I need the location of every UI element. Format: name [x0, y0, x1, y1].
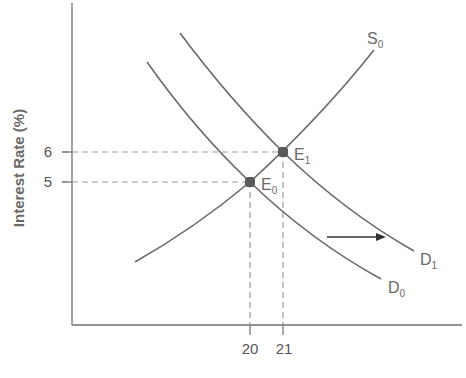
- label-s0: S0: [367, 30, 384, 50]
- demand-curve-d1: [180, 33, 414, 251]
- label-e0: E0: [261, 176, 278, 196]
- label-e1: E1: [294, 146, 311, 166]
- x-tick-label-21: 21: [276, 340, 293, 357]
- supply-demand-chart: Interest Rate (%) 6 5 20 21 S0 D1 D0 E1 …: [0, 0, 466, 378]
- demand-curve-d0: [147, 62, 381, 279]
- y-axis-label: Interest Rate (%): [10, 109, 27, 227]
- supply-curve-s0: [135, 50, 374, 262]
- y-tick-label-6: 6: [44, 143, 52, 160]
- y-tick-label-5: 5: [44, 173, 52, 190]
- arrow-head-icon: [376, 233, 386, 241]
- equilibrium-point-e0: [245, 177, 255, 187]
- label-d1: D1: [420, 251, 438, 271]
- equilibrium-point-e1: [278, 147, 288, 157]
- x-tick-label-20: 20: [242, 340, 259, 357]
- label-d0: D0: [388, 279, 406, 299]
